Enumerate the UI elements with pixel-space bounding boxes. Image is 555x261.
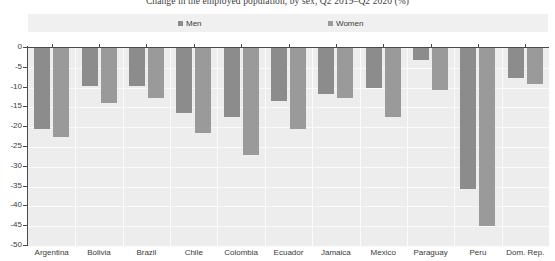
y-axis-label: -30 bbox=[0, 162, 22, 170]
bar-men-ecuador[interactable] bbox=[271, 48, 287, 101]
legend-swatch-men bbox=[178, 21, 183, 26]
chart-title: Change in the employed population, by se… bbox=[0, 0, 555, 7]
bar-men-jamaica[interactable] bbox=[318, 48, 334, 94]
x-axis-label-paraguay: Paraguay bbox=[407, 248, 454, 257]
gridline bbox=[28, 206, 549, 207]
bar-women-jamaica[interactable] bbox=[337, 48, 353, 98]
bar-men-peru[interactable] bbox=[460, 48, 476, 189]
x-axis-label-mexico: Mexico bbox=[360, 248, 407, 257]
y-axis-label: -50 bbox=[0, 241, 22, 249]
bar-women-argentina[interactable] bbox=[53, 48, 69, 137]
bar-men-colombia[interactable] bbox=[224, 48, 240, 117]
legend-swatch-women bbox=[328, 21, 333, 26]
x-axis-label-ecuador: Ecuador bbox=[265, 248, 312, 257]
x-axis-label-chile: Chile bbox=[170, 248, 217, 257]
bar-men-chile[interactable] bbox=[176, 48, 192, 113]
y-axis-label: -20 bbox=[0, 122, 22, 130]
group-separator bbox=[217, 48, 218, 246]
group-separator bbox=[407, 48, 408, 246]
group-separator bbox=[265, 48, 266, 246]
bar-men-argentina[interactable] bbox=[34, 48, 50, 129]
legend-label-women: Women bbox=[336, 19, 363, 28]
group-separator bbox=[170, 48, 171, 246]
group-separator bbox=[502, 48, 503, 246]
bar-men-bolivia[interactable] bbox=[82, 48, 98, 86]
x-axis-label-brazil: Brazil bbox=[123, 248, 170, 257]
legend-label-men: Men bbox=[186, 19, 202, 28]
gridline bbox=[28, 226, 549, 227]
x-axis-label-bolivia: Bolivia bbox=[75, 248, 122, 257]
bar-women-brazil[interactable] bbox=[148, 48, 164, 98]
group-separator bbox=[312, 48, 313, 246]
x-axis-label-colombia: Colombia bbox=[217, 248, 264, 257]
y-axis-label: -35 bbox=[0, 182, 22, 190]
y-axis-label: -40 bbox=[0, 201, 22, 209]
x-axis-label-jamaica: Jamaica bbox=[312, 248, 359, 257]
bar-men-paraguay[interactable] bbox=[413, 48, 429, 60]
y-axis-label: 0 bbox=[0, 43, 22, 51]
y-axis-label: -5 bbox=[0, 63, 22, 71]
group-separator bbox=[454, 48, 455, 246]
bar-women-mexico[interactable] bbox=[385, 48, 401, 117]
x-axis-label-dom-rep: Dom. Rep. bbox=[502, 248, 549, 257]
plot-area bbox=[28, 47, 549, 246]
legend-item-women[interactable]: Women bbox=[328, 17, 363, 29]
gridline bbox=[28, 246, 549, 247]
bar-women-dom-rep[interactable] bbox=[527, 48, 543, 84]
group-separator bbox=[360, 48, 361, 246]
y-axis-label: -25 bbox=[0, 142, 22, 150]
bar-women-chile[interactable] bbox=[195, 48, 211, 133]
x-axis-label-peru: Peru bbox=[454, 248, 501, 257]
bar-men-dom-rep[interactable] bbox=[508, 48, 524, 78]
x-axis-label-argentina: Argentina bbox=[28, 248, 75, 257]
bar-women-colombia[interactable] bbox=[243, 48, 259, 155]
bar-women-ecuador[interactable] bbox=[290, 48, 306, 129]
bar-men-mexico[interactable] bbox=[366, 48, 382, 88]
bar-men-brazil[interactable] bbox=[129, 48, 145, 86]
chart-legend: Men Women bbox=[28, 14, 548, 32]
y-axis-label: -45 bbox=[0, 221, 22, 229]
bar-women-bolivia[interactable] bbox=[101, 48, 117, 103]
legend-item-men[interactable]: Men bbox=[178, 17, 202, 29]
y-axis-label: -10 bbox=[0, 83, 22, 91]
bar-women-peru[interactable] bbox=[479, 48, 495, 226]
group-separator bbox=[123, 48, 124, 246]
y-axis-label: -15 bbox=[0, 102, 22, 110]
bar-women-paraguay[interactable] bbox=[432, 48, 448, 90]
chart-figure: Change in the employed population, by se… bbox=[0, 0, 555, 261]
group-separator bbox=[75, 48, 76, 246]
